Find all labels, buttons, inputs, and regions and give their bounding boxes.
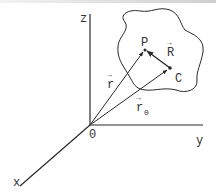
y-axis-label: y [196,134,203,148]
vector-r0-subscript: 0 [144,108,149,117]
rigid-body-outline [118,9,203,92]
x-axis-label: x [13,176,20,190]
vector-r-label: r [107,78,114,92]
vector-diagram: z y x 0 P C → r → r 0 → R [0,0,216,194]
vector-R-label: R [167,46,174,60]
x-axis [20,125,90,186]
vector-r0 [90,70,167,125]
z-axis-label: z [80,12,87,26]
origin-label: 0 [89,128,96,142]
point-c [168,66,172,70]
vector-r0-label: r [136,101,143,115]
point-p-label: P [141,36,148,50]
point-c-label: C [175,72,182,86]
